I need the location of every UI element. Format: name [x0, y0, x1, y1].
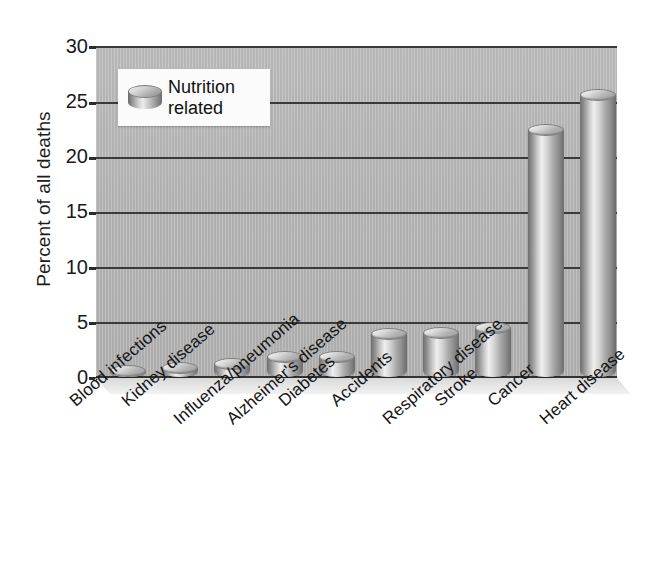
y-tick-label-30: 30 [54, 36, 88, 56]
bar-body [528, 130, 564, 377]
bar-top-ellipse [580, 89, 616, 101]
bar-body [580, 95, 616, 377]
y-tick-label-15: 15 [54, 201, 88, 221]
y-tick-label-10: 10 [54, 257, 88, 277]
cylinder-icon [128, 85, 162, 110]
y-tick-label-20: 20 [54, 146, 88, 166]
legend-label-line1: Nutrition [168, 77, 235, 97]
y-tick-label-25: 25 [54, 91, 88, 111]
legend-label-line2: related [168, 98, 235, 118]
bar [580, 89, 616, 377]
legend: Nutrition related [118, 69, 270, 126]
y-axis-tick-labels: 30 25 20 15 10 5 0 [52, 0, 88, 573]
bar-chart-figure: Percent of all deaths 30 25 20 15 10 5 0 [0, 0, 657, 573]
legend-label: Nutrition related [168, 77, 235, 117]
gridline-30 [96, 46, 617, 48]
bar [528, 124, 564, 377]
y-tick-label-5: 5 [54, 312, 88, 332]
